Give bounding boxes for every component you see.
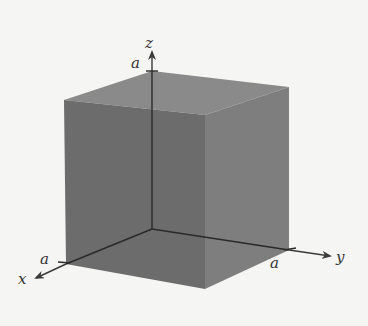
x-tick: [58, 262, 70, 263]
y-axis-label: y: [335, 248, 345, 266]
z-axis-label: z: [144, 34, 153, 52]
x-tick-label: a: [40, 250, 49, 268]
z-tick-label: a: [131, 54, 140, 72]
x-axis-label: x: [18, 270, 27, 288]
y-axis: [289, 250, 330, 256]
cube-diagram: z a x a y a: [0, 0, 368, 326]
cube-svg: z a x a y a: [0, 0, 368, 326]
y-tick-label: a: [270, 254, 279, 272]
cube-front-face: [64, 100, 205, 289]
